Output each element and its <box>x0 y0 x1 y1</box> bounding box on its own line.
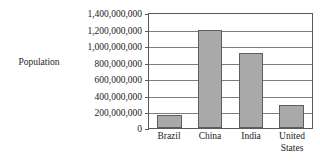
x-axis-tick-labels: Brazil China India United States <box>148 131 313 163</box>
gridline-600000000 <box>149 80 312 81</box>
bar-china <box>198 30 222 128</box>
y-tick-label-1200000000: 1,200,000,000 <box>87 26 142 36</box>
y-tickmark-200000000 <box>145 113 149 114</box>
y-axis-title: Population <box>4 57 74 68</box>
y-tickmark-1000000000 <box>145 47 149 48</box>
y-tick-label-1400000000: 1,400,000,000 <box>87 9 142 19</box>
plot-area <box>148 13 313 129</box>
x-tick-label-brazil: Brazil <box>146 131 192 143</box>
y-tickmark-1400000000 <box>145 14 149 15</box>
y-tickmark-600000000 <box>145 80 149 81</box>
x-tick-label-india-line1: India <box>241 131 261 141</box>
gridline-1200000000 <box>149 31 312 32</box>
y-tickmark-400000000 <box>145 97 149 98</box>
y-tick-label-400000000: 400,000,000 <box>95 92 143 102</box>
x-tick-label-brazil-line1: Brazil <box>157 131 180 141</box>
x-tick-label-united-states: United States <box>268 131 316 154</box>
y-tick-label-200000000: 200,000,000 <box>95 108 143 118</box>
y-axis-tick-labels: 1,400,000,000 1,200,000,000 1,000,000,00… <box>66 0 144 164</box>
y-tickmark-1200000000 <box>145 31 149 32</box>
x-tick-label-china: China <box>187 131 233 143</box>
gridline-1000000000 <box>149 47 312 48</box>
gridline-400000000 <box>149 97 312 98</box>
y-tick-label-600000000: 600,000,000 <box>95 75 143 85</box>
bar-brazil <box>157 115 181 128</box>
gridline-800000000 <box>149 64 312 65</box>
bar-india <box>239 53 263 128</box>
y-tick-label-1000000000: 1,000,000,000 <box>87 42 142 52</box>
y-tick-label-800000000: 800,000,000 <box>95 59 143 69</box>
bar-united-states <box>279 105 303 128</box>
y-tickmark-800000000 <box>145 64 149 65</box>
x-tick-label-china-line1: China <box>199 131 222 141</box>
y-tick-label-0: 0 <box>137 124 142 134</box>
x-tick-label-united-states-line2: States <box>268 143 316 155</box>
bar-chart: Population 1,400,000,000 1,200,000,000 1… <box>0 0 320 164</box>
y-tickmark-0 <box>145 129 149 130</box>
x-tick-label-united-states-line1: United <box>279 131 305 141</box>
